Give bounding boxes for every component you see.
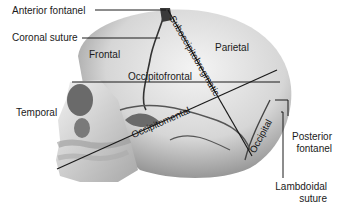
- posterior-fontanel-label: Posterior fontanel: [287, 132, 332, 154]
- occipitofrontal-label: Occipitofrontal: [128, 72, 192, 82]
- temporal-bone-label: Temporal: [16, 108, 57, 118]
- fetal-skull-diagram: Frontal Parietal Temporal Anterior fonta…: [0, 0, 341, 209]
- coronal-suture-label: Coronal suture: [12, 33, 78, 43]
- posterior-fontanel-line1: Posterior: [287, 132, 332, 142]
- frontal-bone-label: Frontal: [89, 50, 120, 60]
- lambdoidal-suture-label: Lambdoidal suture: [273, 182, 327, 204]
- lambdoidal-suture-line2: suture: [273, 194, 327, 204]
- orbit: [67, 84, 93, 116]
- lambdoidal-suture-line1: Lambdoidal: [273, 182, 327, 192]
- parietal-bone-label: Parietal: [215, 43, 249, 53]
- anterior-fontanel-label: Anterior fontanel: [12, 6, 85, 16]
- posterior-fontanel-line2: fontanel: [287, 144, 332, 154]
